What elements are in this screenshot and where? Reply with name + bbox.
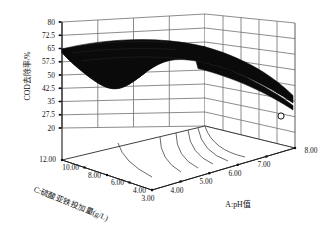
y-tick-label: 4.00 xyxy=(133,186,146,195)
z-axis: 80 72.5 65 57.5 50 42.5 35 27.5 20 COD去除… xyxy=(22,18,62,160)
z-axis-title: COD去除率/% xyxy=(22,51,32,101)
z-tick-label: 50 xyxy=(48,71,56,80)
z-tick-label: 20 xyxy=(48,124,56,133)
y-tick-label: 8.00 xyxy=(88,171,101,180)
surface-bump xyxy=(200,46,206,51)
chart-svg: 80 72.5 65 57.5 50 42.5 35 27.5 20 COD去除… xyxy=(0,0,328,245)
z-tick-label: 42.5 xyxy=(42,84,55,93)
z-tick-label: 72.5 xyxy=(42,31,55,40)
z-tick-label: 65 xyxy=(48,44,56,53)
z-tick-label: 35 xyxy=(48,97,56,106)
x-tick-label: 5.00 xyxy=(200,177,213,186)
z-tick-label: 57.5 xyxy=(42,57,55,66)
z-tick-label: 27.5 xyxy=(42,110,55,119)
y-tick-label: 10.00 xyxy=(62,163,79,172)
z-axis-tick-dots xyxy=(59,21,61,129)
design-point-marker xyxy=(278,113,284,119)
y-tick-label: 12.00 xyxy=(39,155,56,164)
y-axis-title: C:硫酸亚铁投加量(g/L) xyxy=(32,184,110,223)
z-tick-label: 80 xyxy=(48,18,56,27)
x-tick-label: 6.00 xyxy=(229,169,242,178)
x-tick-label: 7.00 xyxy=(258,160,271,169)
x-axis-title: A:pH值 xyxy=(225,199,250,209)
x-tick-label: 4.00 xyxy=(171,186,184,195)
response-surface-chart: 80 72.5 65 57.5 50 42.5 35 27.5 20 COD去除… xyxy=(0,0,328,245)
x-tick-label: 8.00 xyxy=(305,146,318,155)
x-tick-label: 3.00 xyxy=(142,194,155,203)
y-tick-label: 6.00 xyxy=(111,178,124,187)
